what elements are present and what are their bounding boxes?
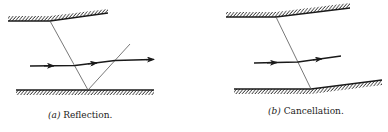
incident-wave-line	[50, 21, 88, 90]
caption-b-label: (b)	[268, 106, 281, 116]
panel-b-cancellation	[226, 3, 382, 94]
panel-a-reflection	[8, 9, 154, 95]
streamline	[30, 60, 152, 67]
arrow-2-icon	[88, 63, 97, 64]
reflected-wave-line	[88, 44, 130, 90]
arrow-2-icon	[313, 59, 322, 60]
wave-line	[276, 17, 311, 89]
caption-a-title: Reflection.	[63, 110, 112, 120]
caption-a: (a) Reflection.	[48, 110, 112, 120]
caption-b-title: Cancellation.	[284, 106, 344, 116]
streamline	[254, 56, 341, 63]
caption-a-label: (a)	[48, 110, 60, 120]
bottom-wall-hatching	[16, 90, 154, 95]
caption-b: (b) Cancellation.	[268, 106, 344, 116]
